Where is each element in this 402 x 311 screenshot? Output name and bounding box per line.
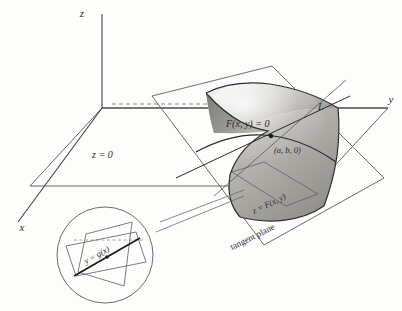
x-axis (18, 108, 102, 222)
inset-point-marker (105, 255, 109, 259)
line-L-label: L (317, 101, 324, 112)
figure-container: z y x z = 0 F(x, y) = 0 (a, b, 0) L z = … (0, 0, 402, 311)
point-a-b-0-label: (a, b, 0) (274, 145, 301, 155)
y-axis-label: y (388, 93, 394, 105)
x-axis-label: x (19, 221, 25, 233)
z-equals-zero-label: z = 0 (91, 149, 113, 160)
leader-line-upper (160, 190, 244, 222)
implicit-curve-label: F(x, y) = 0 (225, 118, 269, 130)
leader-line-lower (156, 196, 244, 232)
z-axis-label: z (79, 7, 85, 19)
tangent-plane-diagram: z y x z = 0 F(x, y) = 0 (a, b, 0) L z = … (0, 0, 402, 311)
point-a-b-0-marker (269, 134, 273, 138)
